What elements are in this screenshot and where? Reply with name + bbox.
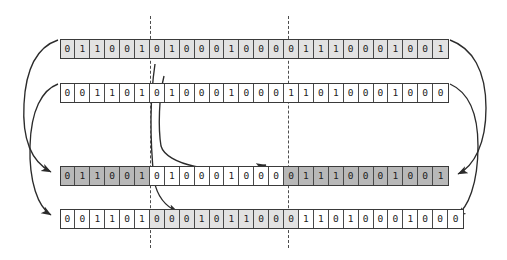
bit-cell: 0: [374, 210, 389, 228]
bit-cell: 0: [210, 210, 225, 228]
bit-cell: 0: [180, 84, 195, 102]
bit-cell: 1: [299, 40, 314, 58]
bit-cell: 0: [180, 167, 195, 185]
bit-cell: 0: [418, 84, 433, 102]
bit-cell: 1: [433, 167, 448, 185]
bit-cell: 1: [105, 84, 120, 102]
bit-cell: 0: [359, 40, 374, 58]
bit-cell: 0: [269, 167, 284, 185]
bit-cell: 0: [75, 84, 90, 102]
bit-cell: 0: [403, 84, 418, 102]
bit-cell: 1: [224, 40, 239, 58]
bit-cell: 0: [195, 40, 210, 58]
bit-cell: 1: [224, 210, 239, 228]
bit-cell: 1: [90, 84, 105, 102]
bit-cell: 0: [239, 40, 254, 58]
parent-1-segment-2: 010001000: [150, 40, 284, 58]
bit-cell: 0: [359, 84, 374, 102]
bit-cell: 1: [299, 167, 314, 185]
bit-cell: 1: [299, 84, 314, 102]
bit-cell: 1: [135, 84, 150, 102]
bit-cell: 1: [314, 210, 329, 228]
bit-cell: 0: [254, 167, 269, 185]
bit-cell: 0: [150, 210, 165, 228]
bit-cell: 0: [374, 167, 389, 185]
bit-cell: 1: [329, 167, 344, 185]
bit-cell: 0: [150, 167, 165, 185]
bit-cell: 0: [403, 167, 418, 185]
bit-cell: 1: [75, 167, 90, 185]
bit-cell: 0: [254, 210, 269, 228]
chromosome-offspring-2: 001101000101100011010001000: [60, 209, 464, 229]
bit-cell: 1: [388, 40, 403, 58]
bit-cell: 0: [150, 40, 165, 58]
bit-cell: 1: [239, 210, 254, 228]
bit-cell: 0: [105, 40, 120, 58]
bit-cell: 1: [90, 40, 105, 58]
offspring-2-segment-2: 0001011000: [150, 210, 299, 228]
bit-cell: 0: [388, 210, 403, 228]
bit-cell: 0: [254, 84, 269, 102]
arrow-parent1-right-to-offspring1: [450, 40, 486, 174]
bit-cell: 1: [165, 84, 180, 102]
bit-cell: 0: [61, 167, 76, 185]
bit-cell: 0: [269, 40, 284, 58]
bit-cell: 0: [210, 84, 225, 102]
offspring-1-segment-1: 011001: [61, 167, 150, 185]
parent-2-segment-1: 001101: [61, 84, 150, 102]
parent-1-segment-3: 01110001001: [284, 40, 448, 58]
parent-2-segment-2: 010001000: [150, 84, 284, 102]
bit-cell: 0: [344, 84, 359, 102]
arrow-parent2-right-to-offspring2: [450, 84, 478, 216]
bit-cell: 1: [165, 167, 180, 185]
bit-cell: 1: [75, 40, 90, 58]
bit-cell: 1: [105, 210, 120, 228]
bit-cell: 0: [284, 210, 299, 228]
bit-cell: 1: [344, 210, 359, 228]
bit-cell: 0: [61, 40, 76, 58]
bit-cell: 0: [284, 167, 299, 185]
parent-1-segment-1: 011001: [61, 40, 150, 58]
crossover-diagram: 0110010100010000111000100100110101000100…: [0, 0, 507, 260]
bit-cell: 0: [374, 40, 389, 58]
bit-cell: 1: [388, 84, 403, 102]
bit-cell: 1: [135, 40, 150, 58]
bit-cell: 0: [120, 210, 135, 228]
chromosome-parent-1: 01100101000100001110001001: [60, 39, 450, 59]
bit-cell: 0: [239, 84, 254, 102]
chromosome-parent-2: 00110101000100011010001000: [60, 83, 450, 103]
bit-cell: 0: [120, 167, 135, 185]
bit-cell: 0: [165, 210, 180, 228]
offspring-2-segment-3: 11010001000: [299, 210, 463, 228]
bit-cell: 1: [329, 40, 344, 58]
bit-cell: 1: [284, 84, 299, 102]
bit-cell: 0: [418, 210, 433, 228]
bit-cell: 1: [314, 40, 329, 58]
bit-cell: 0: [195, 84, 210, 102]
bit-cell: 0: [239, 167, 254, 185]
bit-cell: 0: [210, 167, 225, 185]
bit-cell: 0: [210, 40, 225, 58]
bit-cell: 1: [403, 210, 418, 228]
bit-cell: 0: [433, 84, 448, 102]
bit-cell: 1: [314, 167, 329, 185]
parent-2-segment-3: 11010001000: [284, 84, 448, 102]
bit-cell: 1: [135, 167, 150, 185]
bit-cell: 0: [180, 210, 195, 228]
bit-cell: 1: [135, 210, 150, 228]
bit-cell: 0: [61, 84, 76, 102]
bit-cell: 0: [359, 210, 374, 228]
bit-cell: 1: [433, 40, 448, 58]
bit-cell: 1: [224, 84, 239, 102]
arrow-parent2-left-to-offspring2: [30, 84, 58, 215]
bit-cell: 0: [418, 167, 433, 185]
bit-cell: 1: [165, 40, 180, 58]
bit-cell: 0: [75, 210, 90, 228]
bit-cell: 1: [224, 167, 239, 185]
bit-cell: 0: [418, 40, 433, 58]
bit-cell: 0: [105, 167, 120, 185]
bit-cell: 0: [403, 40, 418, 58]
bit-cell: 0: [269, 210, 284, 228]
chromosome-offspring-1: 01100101000100001110001001: [60, 166, 450, 186]
bit-cell: 0: [314, 84, 329, 102]
